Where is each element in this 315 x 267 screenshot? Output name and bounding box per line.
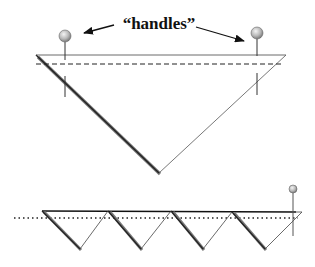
handle-right (251, 27, 263, 95)
handles-diagram: “handles” (0, 0, 315, 267)
handle-bottom (289, 185, 297, 236)
small-triangle (171, 211, 232, 250)
small-triangle (42, 211, 108, 250)
handle-ball-icon (59, 30, 71, 42)
handle-ball-icon (289, 185, 297, 193)
handle-ball-icon (251, 27, 263, 39)
large-triangle (36, 55, 286, 174)
small-triangles-row (42, 211, 302, 250)
arrow-left (84, 25, 114, 33)
handles-label: “handles” (123, 14, 196, 33)
small-triangle (108, 211, 171, 250)
arrow-right (196, 27, 244, 41)
